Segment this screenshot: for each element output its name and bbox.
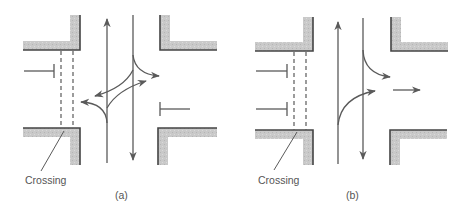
southbound-left-turn-arrow <box>363 50 390 77</box>
figure: Crossing (a) Crossing (b) <box>0 0 468 213</box>
stop-bar-west-upper <box>256 64 287 78</box>
stop-bar-west-lower <box>256 102 287 116</box>
panel-b <box>255 17 448 170</box>
pedestrian-crossing <box>61 51 73 128</box>
panel-a <box>23 15 217 171</box>
northbound-left-turn-arrow <box>81 102 107 123</box>
curb-top-left <box>23 15 80 50</box>
caption-a: (a) <box>115 189 128 201</box>
crossing-label-b: Crossing <box>258 174 299 186</box>
southbound-right-turn-arrow <box>95 70 133 96</box>
curb-bottom-left <box>255 130 313 165</box>
stop-bar-west <box>24 64 54 78</box>
caption-b: (b) <box>346 189 359 201</box>
stop-bar-east <box>160 102 190 116</box>
crossing-label-a: Crossing <box>25 174 66 186</box>
curb-top-right <box>160 15 217 50</box>
figure-svg <box>0 0 468 213</box>
northbound-right-turn-arrow <box>338 91 375 125</box>
curb-top-right <box>391 17 448 51</box>
curb-bottom-right <box>158 128 217 165</box>
southbound-left-turn-arrow <box>133 55 159 76</box>
northbound-right-turn-arrow <box>107 81 146 108</box>
pedestrian-crossing <box>294 52 306 130</box>
curb-bottom-left <box>23 128 80 165</box>
curb-top-left <box>255 17 313 51</box>
curb-bottom-right <box>390 130 447 165</box>
